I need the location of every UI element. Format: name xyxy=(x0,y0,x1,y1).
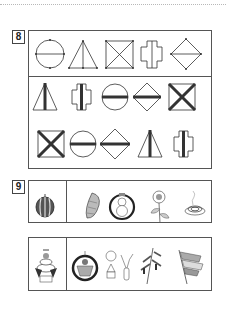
koinobori-icon[interactable] xyxy=(179,250,203,284)
sunflower-icon[interactable] xyxy=(151,191,169,223)
circle-bold-diameter-icon[interactable] xyxy=(102,84,128,110)
moon-viewing-icon[interactable] xyxy=(106,251,133,280)
page-top-dotted-border xyxy=(0,4,226,5)
triangle-with-median-icon xyxy=(69,41,97,68)
q8-answer-grid xyxy=(28,76,212,169)
circle-with-diameter-icon xyxy=(36,40,64,68)
q9-row-2-icons xyxy=(29,238,213,292)
mosquito-coil-icon[interactable] xyxy=(185,191,205,215)
watermelon-icon xyxy=(36,194,54,217)
kagami-mochi-icon xyxy=(35,250,57,282)
q9-row-1 xyxy=(28,180,212,223)
square-bold-diagonals-icon[interactable] xyxy=(169,84,195,110)
triangle-bold-median-icon[interactable] xyxy=(33,83,57,110)
q8-answer-shapes xyxy=(29,77,213,170)
diamond-bold-horizontal-icon[interactable] xyxy=(100,129,130,159)
question-9-number: 9 xyxy=(12,180,25,194)
square-with-diagonals-icon xyxy=(106,41,133,68)
triangle-bold-median-icon[interactable] xyxy=(138,130,162,157)
diamond-with-horizontal-line-icon xyxy=(171,39,201,69)
basket-ornament-icon[interactable] xyxy=(73,251,97,280)
q8-model-row xyxy=(28,30,212,77)
square-bold-diagonals-icon[interactable] xyxy=(38,131,64,157)
q8-model-shapes xyxy=(29,31,213,78)
cross-bold-vertical-icon[interactable] xyxy=(174,131,193,157)
snowman-ornament-icon[interactable] xyxy=(110,193,134,219)
cross-with-vertical-line-icon xyxy=(141,41,162,68)
diamond-bold-horizontal-icon[interactable] xyxy=(133,83,161,111)
circle-bold-diameter-icon[interactable] xyxy=(70,131,96,157)
question-8-number: 8 xyxy=(12,30,25,44)
q9-row-1-icons xyxy=(29,181,213,224)
cross-bold-vertical-icon[interactable] xyxy=(72,84,91,110)
tanabata-bamboo-icon[interactable] xyxy=(141,248,161,284)
q9-row-2 xyxy=(28,237,212,291)
cicada-icon[interactable] xyxy=(86,193,99,218)
